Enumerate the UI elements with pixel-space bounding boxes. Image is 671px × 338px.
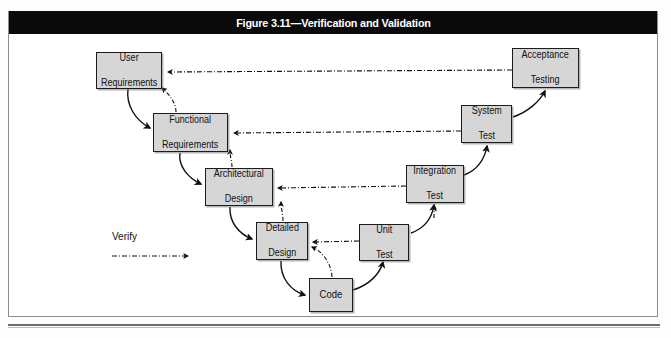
node-detailed-design-label: DetailedDesign [261, 222, 303, 260]
node-architectural-design[interactable]: ArchitecturalDesign [205, 168, 273, 206]
node-system-test[interactable]: SystemTest [461, 105, 512, 143]
node-architectural-design-label: ArchitecturalDesign [209, 168, 269, 206]
node-unit-test[interactable]: UnitTest [359, 224, 409, 261]
node-acceptance-testing-label: AcceptanceTesting [517, 49, 574, 87]
node-user-requirements[interactable]: UserRequirements [96, 52, 162, 89]
bottom-rule [8, 324, 660, 326]
figure-title: Figure 3.11—Verification and Validation [236, 17, 431, 29]
node-integration-test[interactable]: IntegrationTest [406, 165, 464, 203]
bottom-rule-shadow [8, 327, 660, 328]
legend: Verify [112, 231, 232, 271]
node-code[interactable]: Code [309, 278, 353, 312]
node-functional-requirements[interactable]: FunctionalRequirements [153, 113, 228, 152]
figure-title-bar: Figure 3.11—Verification and Validation [9, 11, 657, 34]
node-unit-test-label: UnitTest [371, 224, 396, 262]
node-system-test-label: SystemTest [467, 105, 506, 143]
node-user-requirements-label: UserRequirements [96, 52, 163, 90]
figure-container: Figure 3.11—Verification and Validation [0, 0, 671, 338]
node-acceptance-testing[interactable]: AcceptanceTesting [512, 48, 579, 88]
legend-verify-label: Verify [112, 231, 232, 242]
node-integration-test-label: IntegrationTest [409, 165, 462, 203]
node-detailed-design[interactable]: DetailedDesign [256, 222, 308, 260]
node-code-label: Code [318, 289, 345, 302]
node-functional-requirements-label: FunctionalRequirements [157, 114, 224, 152]
